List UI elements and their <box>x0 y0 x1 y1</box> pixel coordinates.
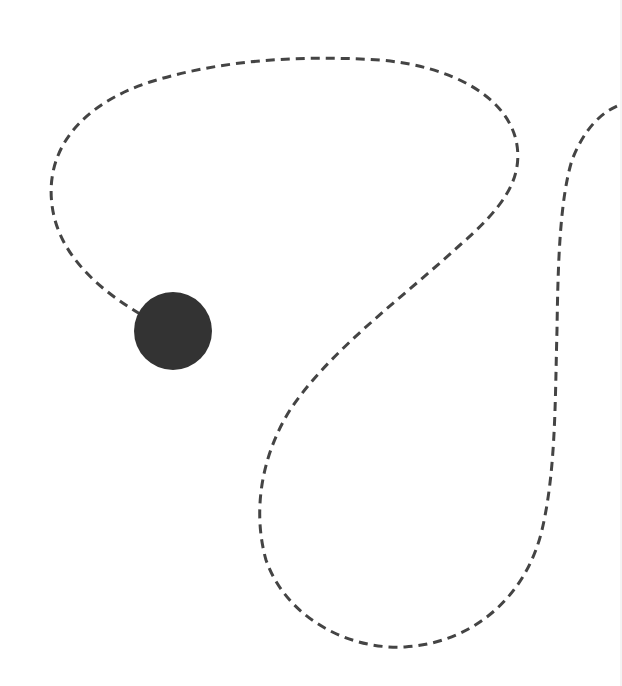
path-start-marker-circle[interactable] <box>134 292 212 370</box>
drawing-canvas <box>0 0 622 686</box>
path-diagram <box>0 0 622 686</box>
background <box>0 0 622 686</box>
